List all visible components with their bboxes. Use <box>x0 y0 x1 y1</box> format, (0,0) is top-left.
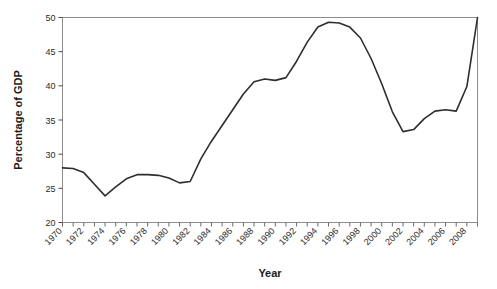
y-tick-label-35: 35 <box>45 116 55 126</box>
chart-background <box>0 0 497 289</box>
y-tick-label-20: 20 <box>45 218 55 228</box>
y-tick-label-30: 30 <box>45 150 55 160</box>
chart-container: 20253035404550 1970197219741976197819801… <box>0 0 497 289</box>
x-axis-title: Year <box>258 267 282 279</box>
y-tick-label-25: 25 <box>45 184 55 194</box>
y-tick-label-40: 40 <box>45 81 55 91</box>
y-tick-label-50: 50 <box>45 13 55 23</box>
y-axis-title: Percentage of GDP <box>12 70 24 170</box>
line-chart: 20253035404550 1970197219741976197819801… <box>0 0 497 289</box>
y-tick-label-45: 45 <box>45 47 55 57</box>
